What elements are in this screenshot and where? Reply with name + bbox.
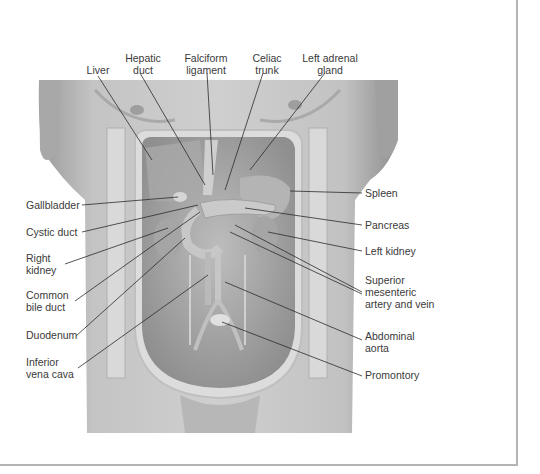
abdominal-cavity [135,130,302,398]
label-text: Spleen [365,187,398,199]
label-text: Common [26,289,69,301]
label-right-kidney: Right kidney [26,252,56,276]
label-text: ligament [184,64,227,76]
label-liver: Liver [87,64,110,76]
label-promontory: Promontory [365,369,419,381]
label-hepatic-duct: Hepatic duct [125,52,161,76]
label-inferior-vena-cava: Inferior vena cava [26,356,74,380]
label-text: Superior [365,274,434,286]
label-text: Gallbladder [26,199,80,211]
label-text: trunk [252,64,281,76]
label-celiac-trunk: Celiac trunk [252,52,281,76]
label-text: Promontory [365,369,419,381]
label-text: Left adrenal [302,52,357,64]
label-text: aorta [365,342,415,354]
label-text: Celiac [252,52,281,64]
label-text: Liver [87,64,110,76]
label-cystic-duct: Cystic duct [26,226,77,238]
label-gallbladder: Gallbladder [26,199,80,211]
label-duodenum: Duodenum [26,329,77,341]
label-text: artery and vein [365,298,434,310]
label-text: Cystic duct [26,226,77,238]
label-text: kidney [26,264,56,276]
label-text: vena cava [26,368,74,380]
label-text: duct [125,64,161,76]
label-left-kidney: Left kidney [365,245,416,257]
label-common-bile-duct: Common bile duct [26,289,69,313]
label-text: bile duct [26,301,69,313]
label-text: gland [302,64,357,76]
label-abdominal-aorta: Abdominal aorta [365,330,415,354]
label-text: Pancreas [365,219,409,231]
label-text: mesenteric [365,286,434,298]
label-text: Abdominal [365,330,415,342]
label-text: Right [26,252,56,264]
label-text: Left kidney [365,245,416,257]
label-pancreas: Pancreas [365,219,409,231]
label-text: Hepatic [125,52,161,64]
label-text: Falciform [184,52,227,64]
label-left-adrenal-gland: Left adrenal gland [302,52,357,76]
label-spleen: Spleen [365,187,398,199]
label-text: Duodenum [26,329,77,341]
label-text: Inferior [26,356,74,368]
label-superior-mesenteric-artery-and-vein: Superior mesenteric artery and vein [365,274,434,310]
label-falciform-ligament: Falciform ligament [184,52,227,76]
